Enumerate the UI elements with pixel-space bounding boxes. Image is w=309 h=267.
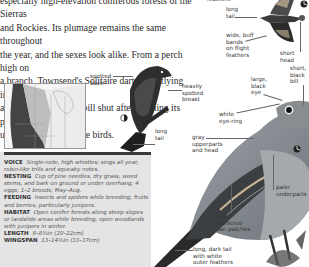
wingspan-label: WINGSPAN: [4, 237, 38, 243]
label-white-eye-ring: white eye-ring: [219, 111, 242, 124]
label-short-head: short head: [280, 50, 294, 63]
habitat-label: HABITAT: [4, 209, 30, 215]
label-spotted-back: spotted back: [90, 73, 111, 86]
voice-label: VOICE: [4, 159, 23, 165]
label-paler-underparts: paler underparts: [276, 184, 307, 197]
info-box-top-bar: [4, 152, 151, 155]
range-map: [4, 83, 86, 149]
leader-line: [231, 185, 232, 213]
leader-line: [303, 85, 304, 105]
nesting-label: NESTING: [4, 173, 31, 179]
label-long-dark-tail: long, dark tail with white outer feather…: [193, 246, 233, 266]
leader-line: [175, 250, 193, 251]
info-box-text: VOICE Single-note, high whistles; sings …: [4, 159, 149, 244]
adult-symbol-icon: [300, 0, 308, 8]
habitat-entry: HABITAT Open conifer forests along steep…: [4, 209, 149, 230]
voice-entry: VOICE Single-note, high whistles; sings …: [4, 159, 149, 173]
voice-text: Single-note, high whistles; sings all ye…: [4, 159, 139, 172]
feeding-label: FEEDING: [4, 194, 31, 200]
label-wide-buff-bands: wide, buff bands on flight feathers: [226, 32, 254, 58]
intro-line: and Rockies. Its plumage remains the sam…: [0, 21, 200, 48]
label-gray-upperparts: gray upperparts and head: [192, 134, 223, 154]
nesting-entry: NESTING Cup of pine needles, dry grass, …: [4, 173, 149, 194]
leader-line: [300, 22, 301, 52]
wingspan-text: 13–14½in (33–37cm): [41, 237, 99, 243]
leader-line: [113, 76, 133, 77]
leader-line: [235, 17, 257, 18]
label-pale-chestnut-tan: pale chestnut- tan patches: [217, 213, 250, 233]
leader-line: [273, 155, 274, 190]
half-moon-icon: [120, 114, 128, 122]
range-map-graphic: [5, 84, 85, 148]
feeding-entry: FEEDING Insects and spiders while breedi…: [4, 194, 149, 208]
label-feathers: feathers: [207, 0, 230, 3]
length-text: 8–8½in (20–22cm): [32, 230, 83, 236]
label-short-black-bill: short, black bill: [290, 65, 306, 85]
adult-symbol-icon: [293, 145, 301, 153]
label-large-black-eye: large, black eye: [251, 76, 267, 96]
intro-line: especially high-elevation coniferous for…: [0, 0, 200, 21]
leader-line: [206, 138, 254, 139]
length-entry: LENGTH 8–8½in (20–22cm): [4, 230, 149, 237]
length-label: LENGTH: [4, 230, 29, 236]
wingspan-entry: WINGSPAN 13–14½in (33–37cm): [4, 237, 149, 244]
